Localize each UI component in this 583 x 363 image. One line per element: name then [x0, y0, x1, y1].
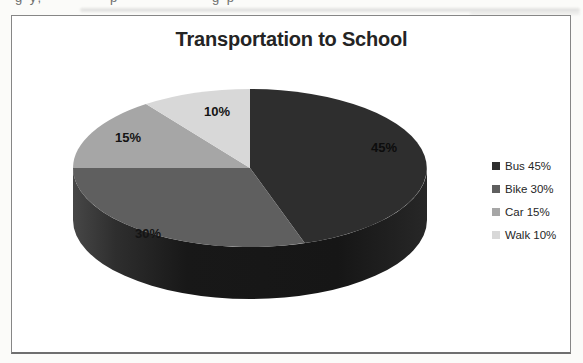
data-label-car: 15%	[115, 130, 141, 145]
legend-label-walk: Walk 10%	[505, 229, 556, 241]
legend-item-bike: Bike 30%	[492, 182, 556, 196]
legend-label-bike: Bike 30%	[505, 183, 554, 195]
data-label-walk: 10%	[204, 104, 230, 119]
chart-legend: Bus 45% Bike 30% Car 15% Walk 10%	[492, 159, 556, 242]
legend-swatch-bus	[492, 162, 500, 170]
scanned-page: g y, p g p Transportation to School 45% …	[0, 0, 583, 363]
legend-swatch-walk	[492, 231, 500, 239]
data-label-bike: 30%	[135, 226, 161, 241]
legend-label-car: Car 15%	[505, 206, 550, 218]
legend-label-bus: Bus 45%	[505, 160, 551, 172]
legend-item-bus: Bus 45%	[492, 159, 556, 173]
legend-swatch-car	[492, 208, 500, 216]
legend-item-walk: Walk 10%	[492, 228, 556, 242]
legend-item-car: Car 15%	[492, 205, 556, 219]
legend-swatch-bike	[492, 185, 500, 193]
data-label-bus: 45%	[371, 140, 397, 155]
